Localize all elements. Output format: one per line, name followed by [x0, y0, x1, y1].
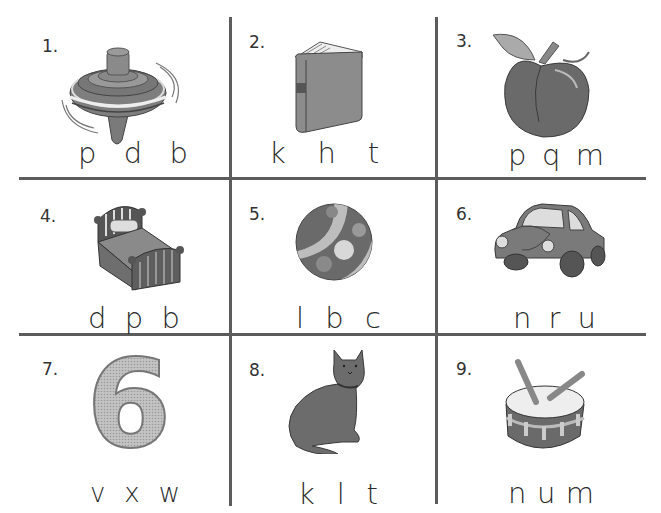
choice-letter[interactable]: c: [365, 301, 381, 335]
item-number: 4.: [40, 206, 56, 226]
choice-letter[interactable]: n: [508, 476, 526, 510]
choice-letter[interactable]: p: [78, 136, 96, 170]
item-number: 6.: [456, 204, 472, 224]
choice-letter[interactable]: x: [124, 478, 139, 508]
item-7: 7. 6 v x w: [0, 336, 229, 513]
letter-choices: k l t: [298, 477, 378, 511]
item-number: 2.: [249, 32, 265, 52]
item-6: 6. n r u: [438, 180, 661, 333]
choice-letter[interactable]: b: [170, 136, 188, 170]
letter-choices: p q m: [508, 138, 604, 172]
letter-choices: n r u: [513, 301, 596, 335]
choice-letter[interactable]: u: [537, 476, 555, 510]
cat-icon: [282, 346, 372, 454]
choice-letter[interactable]: m: [566, 476, 594, 510]
choice-letter[interactable]: d: [124, 136, 142, 170]
choice-letter[interactable]: k: [298, 477, 315, 511]
choice-letter[interactable]: v: [90, 478, 105, 508]
item-8: 8. k l t: [232, 336, 435, 513]
choice-letter[interactable]: l: [337, 477, 345, 511]
item-number: 5.: [249, 204, 265, 224]
choice-letter[interactable]: q: [542, 138, 560, 172]
choice-letter[interactable]: h: [318, 136, 336, 170]
item-number: 1.: [42, 36, 58, 56]
choice-letter[interactable]: b: [162, 301, 180, 335]
item-3: 3. p q m: [438, 0, 661, 177]
choice-letter[interactable]: m: [576, 138, 604, 172]
book-icon: [292, 38, 367, 136]
item-9: 9. n u m: [438, 336, 661, 513]
choice-letter[interactable]: w: [159, 478, 180, 508]
ball-icon: [294, 202, 374, 282]
letter-choices: d p b: [88, 301, 180, 335]
choice-letter[interactable]: p: [125, 301, 143, 335]
item-number: 9.: [456, 359, 472, 379]
choice-letter[interactable]: n: [513, 301, 531, 335]
svg-text:6: 6: [88, 348, 170, 452]
letter-choices: k h t: [269, 136, 379, 170]
choice-letter[interactable]: k: [269, 136, 286, 170]
item-1: 1. p d b: [0, 0, 229, 177]
item-number: 3.: [456, 31, 472, 51]
bed-icon: [90, 202, 185, 294]
number-six-icon: 6: [88, 348, 170, 452]
item-5: 5. l b c: [232, 180, 435, 333]
spinning-top-icon: [60, 45, 185, 150]
choice-letter[interactable]: p: [508, 138, 526, 172]
choice-letter[interactable]: t: [368, 136, 379, 170]
item-2: 2. k h t: [232, 0, 435, 177]
car-icon: [492, 200, 607, 280]
peach-icon: [493, 30, 605, 140]
choice-letter[interactable]: r: [549, 301, 561, 335]
letter-choices: v x w: [90, 478, 180, 508]
choice-letter[interactable]: b: [325, 301, 343, 335]
choice-letter[interactable]: t: [367, 477, 378, 511]
letter-choices: n u m: [508, 476, 594, 510]
letter-choices: p d b: [78, 136, 188, 170]
letter-choices: l b c: [296, 301, 381, 335]
choice-letter[interactable]: l: [296, 301, 304, 335]
choice-letter[interactable]: d: [88, 301, 106, 335]
item-4: 4. d p b: [0, 180, 229, 333]
drum-icon: [502, 356, 592, 456]
choice-letter[interactable]: u: [578, 301, 596, 335]
item-number: 8.: [249, 360, 265, 380]
item-number: 7.: [42, 359, 58, 379]
